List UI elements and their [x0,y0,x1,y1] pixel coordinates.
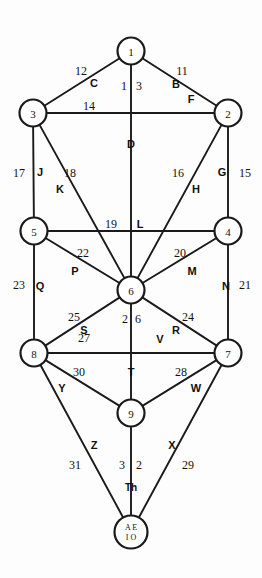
path-letter-label: H [192,183,200,195]
sephirah-node-7[interactable]: 7 [215,340,242,367]
path-edge-17-J [33,126,34,218]
path-letter-label: W [191,382,202,394]
sephirah-node-4[interactable]: 4 [215,218,242,245]
path-letter-label: J [37,166,43,178]
sephirah-node-1[interactable]: 1 [118,38,145,65]
path-letter-label: Q [36,280,45,292]
tree-of-life-diagram: 123456789A EI O 121113141718161519222023… [0,0,262,578]
path-number-label: 21 [239,278,251,292]
path-number-label: 15 [239,166,251,180]
path-number-label: 18 [64,166,76,180]
node-circle-10 [115,516,148,549]
path-number-label: 19 [105,217,117,231]
path-number-label: 25 [68,310,80,324]
sephirah-node-3[interactable]: 3 [20,100,47,127]
path-number-label: 2 [122,312,128,326]
path-letter-label: Z [91,439,98,451]
path-number-label: 20 [174,246,186,260]
path-letter-label: D [127,138,135,150]
path-number-label: 3 [119,458,125,472]
path-number-label: 30 [73,365,85,379]
path-edge-24-R [142,297,217,346]
sephirah-node-2[interactable]: 2 [215,100,242,127]
path-number-label: 23 [13,278,25,292]
path-number-label: 22 [77,246,89,260]
path-letter-label: X [168,439,176,451]
path-number-label: 6 [135,312,141,326]
path-edge-22-P [45,238,120,283]
path-edge-29-X [139,364,222,518]
path-letter-label: N [222,280,230,292]
path-letter-label: R [172,324,180,336]
node-label-4: 4 [225,226,231,238]
path-number-label: 24 [182,310,194,324]
tree-of-life-svg: 123456789A EI O 121113141718161519222023… [0,0,262,578]
sephirah-node-10[interactable]: A EI O [115,516,148,549]
node-label-8: 8 [31,348,37,360]
path-number-label: 29 [182,458,194,472]
path-number-label: 3 [136,79,142,93]
path-letter-label: F [188,93,195,105]
path-letter-label: L [137,218,144,230]
sephirah-node-9[interactable]: 9 [118,400,145,427]
node-label-3: 3 [30,108,36,120]
sephirah-node-5[interactable]: 5 [21,218,48,245]
path-letter-label: B [172,78,180,90]
sephirah-node-6[interactable]: 6 [118,277,145,304]
node-label-6: 6 [128,285,134,297]
node-label-5: 5 [31,226,37,238]
path-number-label: 31 [69,458,81,472]
node-label-10-line1: A E [125,523,137,532]
path-number-label: 12 [75,64,87,78]
node-label-2: 2 [225,108,231,120]
path-letter-label: Y [58,382,66,394]
path-letter-label: P [71,265,78,277]
path-edge-31-Z [40,364,123,518]
path-letter-label: S [80,324,87,336]
path-number-label: 17 [13,166,25,180]
sephirah-node-8[interactable]: 8 [21,340,48,367]
path-letter-label: C [90,77,98,89]
node-label-7: 7 [225,348,231,360]
path-letter-label: Th [125,482,137,493]
path-letter-label: K [56,183,64,195]
path-number-label: 28 [175,365,187,379]
path-number-label: 2 [136,458,142,472]
path-number-label: 11 [176,64,188,78]
node-label-1: 1 [128,46,134,58]
path-letter-label: G [218,166,227,178]
path-letter-label: T [128,366,135,378]
path-letter-label: V [156,333,164,345]
node-label-10-line2: I O [126,533,137,542]
path-edge-20-M [142,238,217,283]
path-letter-label: M [187,265,196,277]
path-number-label: 14 [83,99,95,113]
path-number-label: 1 [121,79,127,93]
path-number-label: 16 [172,166,184,180]
node-label-9: 9 [128,408,134,420]
